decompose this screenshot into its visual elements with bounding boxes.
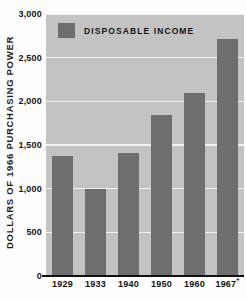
y-axis-tick-label: 2,000 bbox=[18, 96, 42, 106]
bar bbox=[118, 153, 139, 276]
x-axis-tick-labels: 192919331940195019601967* bbox=[46, 279, 244, 297]
legend-swatch-disposable-income bbox=[58, 23, 75, 38]
gridline bbox=[46, 144, 244, 146]
legend-label: DISPOSABLE INCOME bbox=[84, 26, 194, 36]
bar bbox=[85, 189, 106, 276]
gridline bbox=[46, 14, 244, 15]
gridline bbox=[46, 232, 244, 234]
x-axis-baseline bbox=[42, 275, 244, 277]
gridline bbox=[46, 101, 244, 103]
bar-chart: DOLLARS OF 1966 PURCHASING POWER 05001,0… bbox=[0, 0, 246, 299]
x-axis-tick-label: 1929 bbox=[52, 279, 73, 289]
y-axis-tick-label: 1,500 bbox=[18, 140, 42, 150]
x-axis-tick-label: 1933 bbox=[85, 279, 106, 289]
gridline bbox=[46, 188, 244, 190]
y-axis-tick-label: 500 bbox=[26, 227, 42, 237]
x-axis-tick-label: 1960 bbox=[184, 279, 205, 289]
y-axis-title-text: DOLLARS OF 1966 PURCHASING POWER bbox=[4, 36, 15, 249]
y-axis-tick-label: 2,500 bbox=[18, 53, 42, 63]
x-axis-tick-label: 1940 bbox=[118, 279, 139, 289]
y-axis-tick-label: 3,000 bbox=[18, 9, 42, 19]
bar bbox=[184, 93, 205, 276]
bar bbox=[151, 115, 172, 276]
legend: DISPOSABLE INCOME bbox=[58, 23, 194, 38]
bar bbox=[217, 39, 238, 276]
gridline bbox=[46, 57, 244, 59]
bar bbox=[52, 156, 73, 276]
y-axis-tick-labels: 05001,0001,5002,0002,5003,000 bbox=[16, 14, 45, 276]
plot-area: DISPOSABLE INCOME bbox=[46, 14, 244, 276]
x-axis-tick-label: 1967* bbox=[215, 279, 239, 289]
y-axis-tick-label: 1,000 bbox=[18, 184, 42, 194]
x-axis-tick-label: 1950 bbox=[151, 279, 172, 289]
